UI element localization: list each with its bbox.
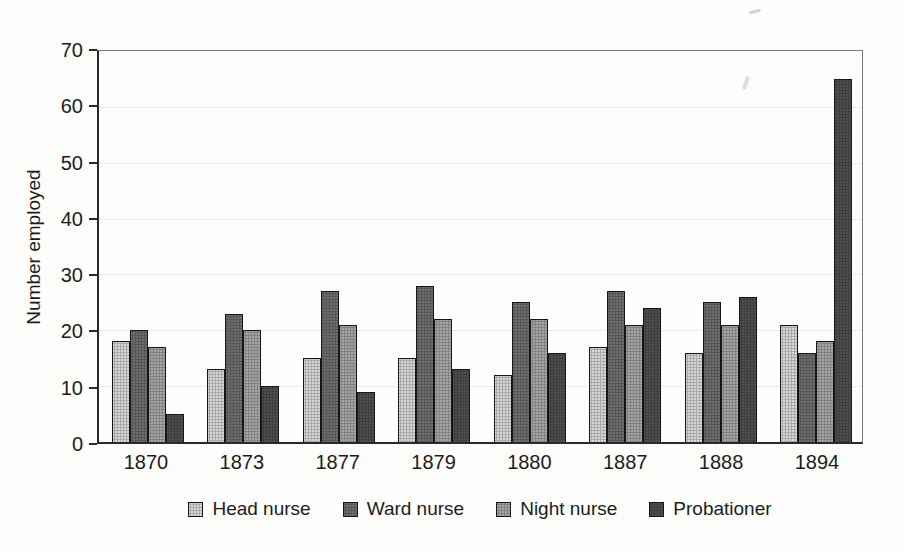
y-tick-mark-0 — [89, 443, 97, 445]
bar-1873-ward-nurse — [225, 314, 243, 442]
bar-1873-probationer — [261, 386, 279, 442]
legend-swatch-icon — [649, 502, 664, 517]
bar-1887-head-nurse — [589, 347, 607, 442]
bar-1879-probationer — [452, 369, 470, 442]
legend-item-ward-nurse: Ward nurse — [343, 498, 465, 520]
x-axis-label-1873: 1873 — [206, 451, 278, 474]
y-tick-mark-40 — [89, 218, 97, 220]
y-tick-label-30: 30 — [33, 265, 83, 285]
bar-1880-night-nurse — [530, 319, 548, 442]
bar-1879-night-nurse — [434, 319, 452, 442]
x-axis-label-1870: 1870 — [110, 451, 182, 474]
y-tick-label-60: 60 — [33, 96, 83, 116]
legend-item-head-nurse: Head nurse — [188, 498, 310, 520]
y-tick-mark-20 — [89, 330, 97, 332]
bar-group-1873 — [207, 51, 279, 442]
bar-1894-probationer — [834, 79, 852, 442]
x-axis-label-1888: 1888 — [685, 451, 757, 474]
bar-1880-ward-nurse — [512, 302, 530, 442]
bar-groups — [99, 51, 862, 442]
x-axis-label-1894: 1894 — [781, 451, 853, 474]
legend-label: Head nurse — [212, 498, 310, 520]
legend-item-night-nurse: Night nurse — [496, 498, 617, 520]
bar-1880-head-nurse — [494, 375, 512, 442]
bar-1870-ward-nurse — [130, 330, 148, 442]
x-axis-label-1887: 1887 — [589, 451, 661, 474]
y-tick-label-20: 20 — [33, 321, 83, 341]
bar-1873-night-nurse — [243, 330, 261, 442]
legend-label: Ward nurse — [367, 498, 465, 520]
bar-1894-ward-nurse — [798, 353, 816, 442]
x-axis-labels: 18701873187718791880188718881894 — [97, 451, 863, 474]
legend-item-probationer: Probationer — [649, 498, 771, 520]
legend-label: Probationer — [673, 498, 771, 520]
bar-1888-head-nurse — [685, 353, 703, 442]
bar-1877-head-nurse — [303, 358, 321, 442]
legend-swatch-icon — [188, 502, 203, 517]
y-tick-mark-60 — [89, 105, 97, 107]
y-tick-mark-10 — [89, 387, 97, 389]
bar-group-1880 — [494, 51, 566, 442]
bar-1887-night-nurse — [625, 325, 643, 442]
bar-1877-night-nurse — [339, 325, 357, 442]
legend: Head nurseWard nurseNight nurseProbation… — [97, 498, 863, 520]
bar-group-1888 — [685, 51, 757, 442]
bar-1880-probationer — [548, 353, 566, 442]
bar-1873-head-nurse — [207, 369, 225, 442]
scanned-bar-chart-figure: Number employed 010203040506070 18701873… — [0, 0, 904, 552]
y-tick-label-10: 10 — [33, 378, 83, 398]
legend-swatch-icon — [496, 502, 511, 517]
legend-label: Night nurse — [520, 498, 617, 520]
x-axis-label-1879: 1879 — [398, 451, 470, 474]
bar-group-1894 — [780, 51, 852, 442]
bar-1888-ward-nurse — [703, 302, 721, 442]
y-tick-label-0: 0 — [33, 434, 83, 454]
y-tick-label-50: 50 — [33, 153, 83, 173]
bar-1870-head-nurse — [112, 341, 130, 442]
bar-1877-probationer — [357, 392, 375, 442]
bar-1877-ward-nurse — [321, 291, 339, 442]
bar-1887-probationer — [643, 308, 661, 442]
bar-1888-night-nurse — [721, 325, 739, 442]
x-axis-label-1880: 1880 — [493, 451, 565, 474]
bar-group-1870 — [112, 51, 184, 442]
plot-area — [97, 50, 863, 444]
y-tick-mark-30 — [89, 274, 97, 276]
legend-swatch-icon — [343, 502, 358, 517]
bar-1887-ward-nurse — [607, 291, 625, 442]
y-tick-mark-70 — [89, 49, 97, 51]
y-tick-label-70: 70 — [33, 40, 83, 60]
bar-1894-night-nurse — [816, 341, 834, 442]
x-axis-label-1877: 1877 — [302, 451, 374, 474]
y-axis: 010203040506070 — [0, 50, 97, 444]
bar-1870-night-nurse — [148, 347, 166, 442]
bar-1870-probationer — [166, 414, 184, 442]
bar-1879-ward-nurse — [416, 286, 434, 442]
scan-artifact — [749, 9, 761, 14]
bar-group-1877 — [303, 51, 375, 442]
bar-1879-head-nurse — [398, 358, 416, 442]
bar-1888-probationer — [739, 297, 757, 442]
bar-group-1879 — [398, 51, 470, 442]
y-tick-mark-50 — [89, 162, 97, 164]
bar-1894-head-nurse — [780, 325, 798, 442]
bar-group-1887 — [589, 51, 661, 442]
y-tick-label-40: 40 — [33, 209, 83, 229]
